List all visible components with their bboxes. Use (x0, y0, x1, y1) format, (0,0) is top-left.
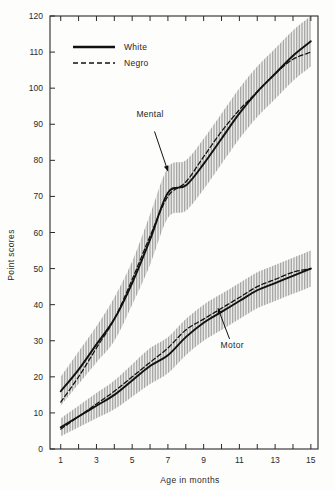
x-tick-label: 7 (166, 455, 171, 465)
chart-legend: WhiteNegro (73, 42, 149, 68)
y-tick-label: 90 (34, 119, 44, 129)
x-tick-label: 3 (94, 455, 99, 465)
y-tick-label: 110 (29, 47, 43, 57)
y-tick-label: 10 (34, 408, 44, 418)
x-axis-title: Age in months (160, 475, 220, 485)
y-tick-label: 50 (34, 264, 44, 274)
x-tick-label: 13 (270, 455, 280, 465)
x-tick-label: 15 (306, 455, 316, 465)
annotation-arrowhead (164, 165, 169, 171)
y-tick-label: 0 (38, 444, 43, 454)
x-tick-label: 11 (235, 455, 244, 465)
y-tick-label: 120 (29, 11, 43, 21)
chart-annotation-label: Motor (221, 340, 244, 350)
x-tick-label: 5 (130, 455, 135, 465)
y-axis-title: Point scores (6, 229, 16, 281)
chart-annotation-label: Mental (136, 109, 163, 119)
annotation-arrow (155, 131, 168, 171)
chart-canvas: 010203040506070809010011012013579111315 … (0, 0, 335, 490)
legend-label: White (124, 42, 147, 52)
y-tick-label: 30 (34, 336, 44, 346)
y-tick-label: 100 (29, 83, 43, 93)
y-tick-label: 40 (34, 300, 44, 310)
legend-label: Negro (124, 58, 149, 68)
x-tick-label: 1 (58, 455, 63, 465)
y-tick-label: 80 (34, 155, 44, 165)
x-tick-label: 9 (201, 455, 206, 465)
confidence-bands (61, 16, 311, 436)
chart-figure: 010203040506070809010011012013579111315 … (0, 0, 335, 490)
y-tick-label: 20 (34, 372, 44, 382)
y-tick-label: 60 (34, 228, 44, 238)
y-tick-label: 70 (34, 191, 44, 201)
